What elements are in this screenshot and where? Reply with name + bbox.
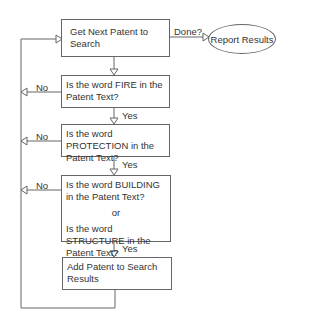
or-label: or bbox=[66, 207, 166, 219]
report-results-label: Report Results bbox=[211, 34, 274, 45]
get-next-patent-box: Get Next Patent to Search bbox=[61, 19, 170, 57]
yes-label-fire: Yes bbox=[122, 110, 138, 121]
report-results-terminal: Report Results bbox=[208, 24, 276, 54]
add-patent-label: Add Patent to Search Results bbox=[67, 261, 157, 284]
no-label-fire: No bbox=[36, 82, 48, 93]
building-question: Is the word BUILDING in the Patent Text? bbox=[66, 179, 160, 202]
fire-decision-box: Is the word FIRE in the Patent Text? bbox=[61, 75, 170, 108]
add-patent-box: Add Patent to Search Results bbox=[62, 257, 172, 290]
protection-decision-box: Is the word PROTECTION in the Patent Tex… bbox=[61, 124, 170, 157]
no-label-building: No bbox=[36, 180, 48, 191]
get-next-patent-label: Get Next Patent to Search bbox=[70, 26, 165, 50]
yes-label-building: Yes bbox=[122, 243, 138, 254]
fire-question: Is the word FIRE in the Patent Text? bbox=[66, 79, 163, 102]
done-label: Done? bbox=[174, 26, 202, 37]
yes-label-protection: Yes bbox=[122, 159, 138, 170]
no-label-protection: No bbox=[36, 131, 48, 142]
building-structure-decision-box: Is the word BUILDING in the Patent Text?… bbox=[61, 175, 171, 242]
